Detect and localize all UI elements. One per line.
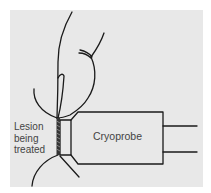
finger-icon xyxy=(57,12,104,118)
lesion-label-line3: treated xyxy=(14,144,45,156)
lesion-label-line1: Lesion xyxy=(14,121,45,133)
lesion-label: Lesion being treated xyxy=(14,121,45,156)
lesion-icon xyxy=(57,118,61,155)
cryoprobe-label: Cryoprobe xyxy=(93,131,142,143)
cryoprobe-diagram xyxy=(0,0,211,193)
lesion-label-line2: being xyxy=(14,133,45,145)
